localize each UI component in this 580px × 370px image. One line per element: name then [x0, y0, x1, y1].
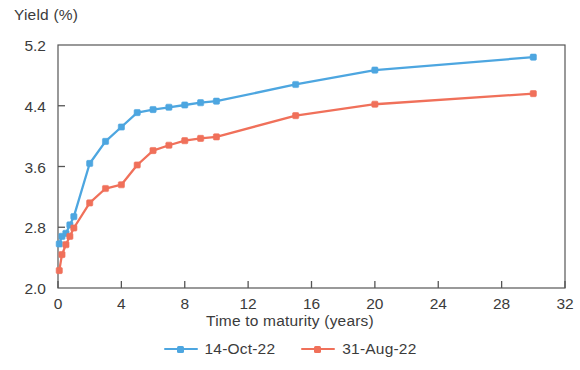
- data-point-marker: [118, 124, 124, 130]
- data-point-marker: [150, 106, 156, 112]
- x-axis-tick-label: 24: [430, 295, 448, 312]
- legend-swatch-series-1: [164, 342, 198, 356]
- x-axis-tick-label: 8: [180, 295, 189, 312]
- data-point-marker: [182, 102, 188, 108]
- data-point-marker: [530, 91, 536, 97]
- legend-item-series-2[interactable]: 31-Aug-22: [301, 340, 416, 358]
- data-point-marker: [197, 100, 203, 106]
- data-point-marker: [293, 81, 299, 87]
- data-point-marker: [71, 225, 77, 231]
- data-point-marker: [166, 104, 172, 110]
- data-point-marker: [530, 54, 536, 60]
- data-point-marker: [87, 200, 93, 206]
- data-point-marker: [372, 101, 378, 107]
- x-axis-tick-label: 20: [366, 295, 384, 312]
- data-point-marker: [134, 109, 140, 115]
- legend-swatch-series-2: [301, 342, 335, 356]
- x-axis-tick-label: 32: [556, 295, 573, 312]
- data-series-2: [56, 91, 536, 274]
- data-point-marker: [56, 241, 62, 247]
- y-axis-tick-label: 2.8: [24, 219, 46, 236]
- y-axis-tick-label: 4.4: [24, 98, 46, 115]
- legend-label-series-2: 31-Aug-22: [342, 340, 416, 358]
- data-point-marker: [293, 113, 299, 119]
- legend-item-series-1[interactable]: 14-Oct-22: [164, 340, 276, 358]
- data-point-marker: [134, 162, 140, 168]
- data-point-marker: [59, 251, 65, 257]
- y-axis-tick-label: 3.6: [24, 159, 46, 176]
- data-point-marker: [56, 267, 62, 273]
- x-axis-tick-label: 4: [117, 295, 126, 312]
- y-axis-tick-label: 2.0: [24, 280, 46, 297]
- yield-curve-figure: Yield (%) 2.02.83.64.45.2048121620242832…: [0, 0, 580, 370]
- y-axis-tick-label: 5.2: [24, 37, 46, 54]
- data-point-marker: [213, 134, 219, 140]
- data-point-marker: [372, 67, 378, 73]
- x-axis-tick-label: 0: [54, 295, 63, 312]
- data-point-marker: [150, 147, 156, 153]
- data-point-marker: [87, 160, 93, 166]
- x-axis-title: Time to maturity (years): [0, 312, 580, 330]
- x-axis-tick-label: 16: [303, 295, 320, 312]
- data-point-marker: [166, 142, 172, 148]
- data-point-marker: [197, 135, 203, 141]
- data-point-marker: [213, 98, 219, 104]
- data-point-marker: [102, 138, 108, 144]
- data-series-1: [56, 54, 536, 247]
- data-point-marker: [118, 182, 124, 188]
- data-point-marker: [102, 185, 108, 191]
- data-point-marker: [67, 233, 73, 239]
- data-point-marker: [71, 214, 77, 220]
- x-axis-tick-label: 12: [240, 295, 257, 312]
- legend-label-series-1: 14-Oct-22: [205, 340, 276, 358]
- x-axis-tick-label: 28: [493, 295, 510, 312]
- data-point-marker: [63, 242, 69, 248]
- data-point-marker: [182, 138, 188, 144]
- chart-legend: 14-Oct-22 31-Aug-22: [0, 340, 580, 358]
